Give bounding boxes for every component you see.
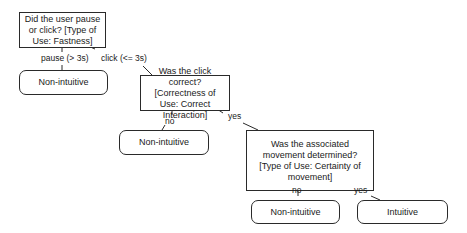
outcome-non-intuitive-1: Non-intuitive [19,70,108,95]
decision-movement-determined: Was the associated movement determined? … [246,130,374,191]
decision-text: Was the associated movement determined? … [255,139,365,183]
edge-label-pause: pause (> 3s) [41,53,89,63]
decision-text: Did the user pause or click? [Type of Us… [23,14,102,47]
decision-pause-or-click: Did the user pause or click? [Type of Us… [19,12,106,48]
outcome-text: Non-intuitive [139,137,189,148]
edge-label-click: click (<= 3s) [101,53,147,63]
outcome-non-intuitive-3: Non-intuitive [251,200,340,224]
outcome-text: Intuitive [387,207,418,218]
edge-label-q2-no: no [165,116,174,126]
outcome-text: Non-intuitive [38,77,88,88]
decision-text: Was the click correct? [Correctness of U… [144,66,226,121]
edge-label-q3-no: no [292,185,301,195]
outcome-text: Non-intuitive [270,207,320,218]
edge-label-q2-yes: yes [228,111,241,121]
outcome-non-intuitive-2: Non-intuitive [119,130,209,155]
outcome-intuitive: Intuitive [357,200,448,224]
decision-click-correct: Was the click correct? [Correctness of U… [140,75,230,111]
edge-label-q3-yes: yes [354,185,367,195]
